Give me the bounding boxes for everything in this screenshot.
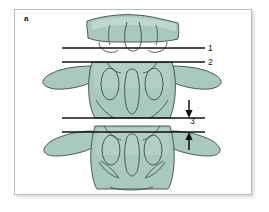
callout-label-2: 2 [208, 58, 213, 67]
callout-label-1: 1 [208, 44, 213, 53]
vertebra-middle-left-transverse-process [43, 66, 94, 89]
vertebra-middle-right-transverse-process [170, 66, 221, 89]
vertebra-illustration [0, 0, 269, 212]
vertebra-middle [43, 62, 221, 118]
vertebra-top [87, 15, 179, 53]
vertebra-middle-highlight [93, 64, 170, 88]
vertebra-bottom [44, 126, 220, 190]
vertebra-bottom-left-transverse-process [44, 131, 94, 156]
callout-label-3: 3 [190, 117, 195, 126]
panel-letter-a: a [24, 15, 28, 23]
vertebra-top-right-pedicle [148, 42, 167, 52]
vertebra-top-left-pedicle [99, 42, 118, 52]
figure-root: a 1 2 3 [0, 0, 269, 212]
vertebra-bottom-right-transverse-process [170, 131, 220, 156]
